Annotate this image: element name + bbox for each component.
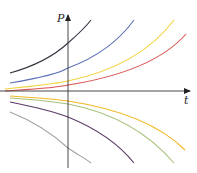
solution-curve-7	[10, 112, 91, 163]
t-axis-label: t	[184, 94, 189, 107]
solution-curve-3	[5, 34, 186, 91]
solution-curve-2	[5, 20, 174, 89]
chart: P t	[0, 0, 197, 173]
solution-curves	[5, 20, 186, 163]
solution-curve-0	[10, 20, 91, 73]
p-axis-label: P	[56, 12, 65, 25]
solution-curve-4	[10, 96, 185, 150]
solution-curve-1	[10, 20, 134, 83]
